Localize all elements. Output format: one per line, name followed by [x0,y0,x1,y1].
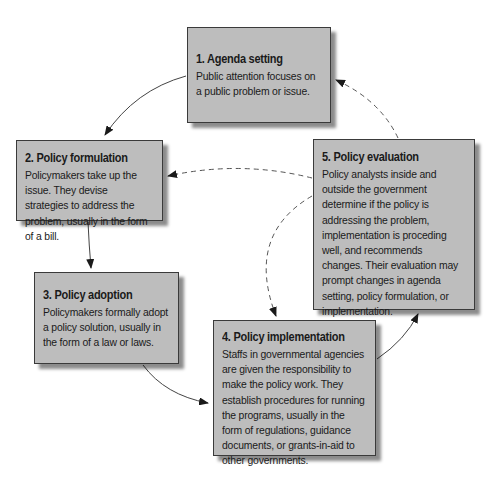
arrow-evaluation-to-implementation [266,196,312,316]
stage-description: Staffs in governmental agencies are give… [222,347,366,469]
stage-title: 4. Policy implementation [222,330,350,344]
stage-policy-adoption: 3. Policy adoption Policymakers formally… [34,272,179,364]
stage-policy-formulation: 2. Policy formulation Policymakers take … [16,140,163,221]
stage-policy-evaluation: 5. Policy evaluation Policy analysts ins… [313,139,475,310]
stage-title: 2. Policy formulation [25,151,139,165]
stage-description: Public attention focuses on a public pro… [196,69,321,99]
stage-title: 3. Policy adoption [43,288,155,302]
arrow-evaluation-to-agenda [336,80,398,138]
stage-title: 1. Agenda setting [196,52,307,66]
arrow-implementation-to-evaluation [377,314,418,359]
stage-description: Policymakers formally adopt a policy sol… [43,305,169,351]
stage-description: Policymakers take up the issue. They dev… [25,168,153,244]
stage-description: Policy analysts inside and outside the g… [322,167,465,319]
stage-policy-implementation: 4. Policy implementation Staffs in gover… [213,320,376,456]
stage-agenda-setting: 1. Agenda setting Public attention focus… [187,27,331,123]
arrow-evaluation-to-formulation [168,168,312,178]
stage-title: 5. Policy evaluation [322,150,449,164]
arrow-adoption-to-implementation [143,365,208,403]
arrow-agenda-to-formulation [105,76,186,135]
